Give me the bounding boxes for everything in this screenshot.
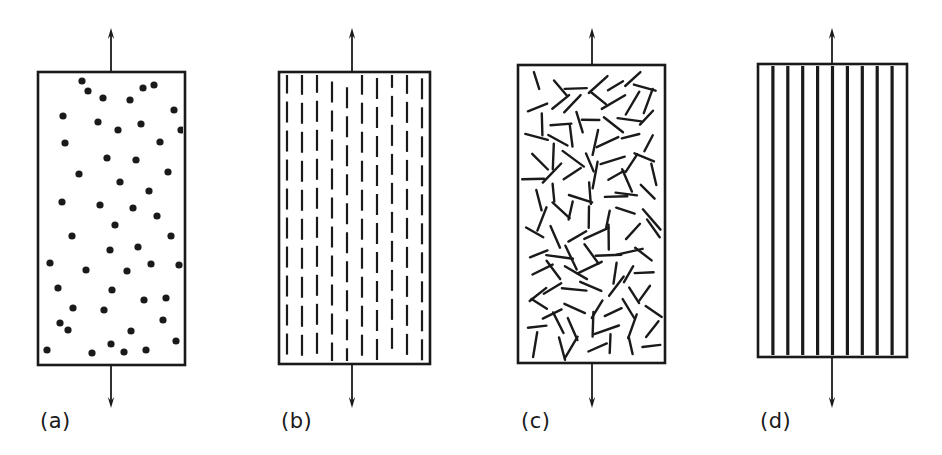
short-fiber-random xyxy=(570,124,573,146)
short-fiber-random xyxy=(622,169,632,191)
short-fiber-random xyxy=(585,244,599,263)
short-fiber-random xyxy=(618,118,642,121)
particle xyxy=(140,296,147,303)
particle xyxy=(127,327,134,334)
particle xyxy=(78,77,85,84)
short-fiber-random xyxy=(522,179,544,180)
particle xyxy=(61,139,68,146)
figure-canvas: (a)(b)(c)(d) xyxy=(0,0,942,455)
panel-d-reinforcement-continuous-aligned-fibers xyxy=(773,65,892,356)
panel-c xyxy=(518,28,665,408)
short-fiber-random xyxy=(646,306,662,317)
particle xyxy=(54,284,61,291)
particle xyxy=(64,326,71,333)
short-fiber-random xyxy=(553,312,563,333)
short-fiber-random xyxy=(584,228,608,239)
particle xyxy=(82,266,89,273)
particle xyxy=(58,198,65,205)
short-fiber-random xyxy=(533,332,537,357)
particle xyxy=(170,106,177,113)
short-fiber-random xyxy=(576,112,582,132)
particle xyxy=(100,306,107,313)
particle xyxy=(139,84,146,91)
particle xyxy=(137,120,144,127)
short-fiber-random xyxy=(534,72,539,89)
short-fiber-random xyxy=(532,299,547,309)
short-fiber-random xyxy=(626,154,638,172)
particle xyxy=(123,267,130,274)
short-fiber-random xyxy=(568,318,578,340)
short-fiber-random xyxy=(589,182,591,204)
panel-a xyxy=(38,28,185,408)
short-fiber-random xyxy=(525,134,548,140)
short-fiber-random xyxy=(543,309,562,318)
short-fiber-random xyxy=(593,312,594,337)
short-fiber-random xyxy=(593,130,599,155)
short-fiber-random xyxy=(586,153,594,171)
short-fiber-random xyxy=(608,81,623,90)
particle xyxy=(145,187,152,194)
short-fiber-random xyxy=(610,334,611,353)
short-fiber-random xyxy=(625,72,640,86)
short-fiber-random xyxy=(594,326,619,335)
particle xyxy=(114,126,121,133)
particle xyxy=(43,346,50,353)
particle xyxy=(126,96,133,103)
particle xyxy=(99,94,106,101)
short-fiber-random xyxy=(616,208,634,214)
short-fiber-random xyxy=(530,250,548,257)
composite-reinforcement-figure: (a)(b)(c)(d) xyxy=(0,0,942,455)
short-fiber-random xyxy=(552,95,569,109)
short-fiber-random xyxy=(553,184,555,202)
short-fiber-random xyxy=(651,164,656,185)
particle xyxy=(107,340,114,347)
particle xyxy=(111,221,118,228)
short-fiber-random xyxy=(641,185,655,199)
short-fiber-random xyxy=(644,135,652,151)
short-fiber-random xyxy=(629,337,633,354)
short-fiber-random xyxy=(591,92,606,104)
short-fiber-random xyxy=(553,144,554,169)
particle xyxy=(162,294,169,301)
particle xyxy=(167,232,174,239)
short-fiber-random xyxy=(640,111,653,125)
short-fiber-random xyxy=(597,137,619,147)
particle xyxy=(88,349,95,356)
short-fiber-random xyxy=(568,231,586,241)
short-fiber-random xyxy=(629,288,639,304)
short-fiber-random xyxy=(562,288,587,290)
short-fiber-random xyxy=(553,202,570,218)
short-fiber-random xyxy=(528,104,547,112)
short-fiber-random xyxy=(628,314,637,338)
short-fiber-random xyxy=(624,266,633,282)
short-fiber-random xyxy=(635,153,655,161)
panel-d xyxy=(758,28,907,408)
panel-a-reinforcement-randomly-dispersed-particles xyxy=(43,77,184,356)
short-fiber-random xyxy=(559,337,565,359)
short-fiber-random xyxy=(565,337,578,358)
panel-label-a: (a) xyxy=(40,409,71,433)
particle xyxy=(69,304,76,311)
short-fiber-random xyxy=(589,76,608,93)
short-fiber-random xyxy=(528,326,547,328)
short-fiber-random xyxy=(626,92,640,115)
short-fiber-random xyxy=(569,202,573,220)
particle xyxy=(103,154,110,161)
short-fiber-random xyxy=(616,193,637,196)
short-fiber-random xyxy=(564,168,581,179)
short-fiber-random xyxy=(635,272,654,273)
short-fiber-random xyxy=(605,196,627,197)
particle xyxy=(175,261,182,268)
particle xyxy=(46,259,53,266)
panel-label-c: (c) xyxy=(521,409,550,433)
short-fiber-random xyxy=(601,157,625,164)
short-fiber-random xyxy=(614,263,617,284)
panel-c-reinforcement-randomly-oriented-short-fibers xyxy=(522,72,662,360)
particle xyxy=(84,87,91,94)
short-fiber-random xyxy=(564,304,585,313)
short-fiber-random xyxy=(644,89,653,113)
particle xyxy=(59,112,66,119)
short-fiber-random xyxy=(565,88,587,89)
short-fiber-random xyxy=(551,226,561,248)
particle xyxy=(120,348,127,355)
